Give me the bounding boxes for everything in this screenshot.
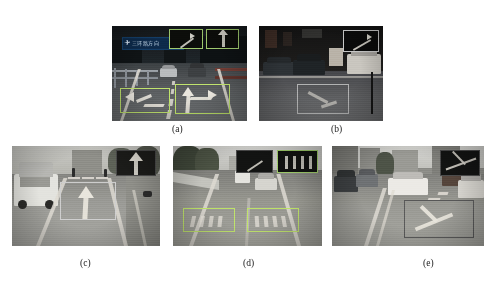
vehicle xyxy=(160,68,177,77)
crosswalk-stripe xyxy=(82,177,94,179)
shop-window xyxy=(329,48,343,66)
caption-c: (c) xyxy=(80,258,91,268)
panel-d xyxy=(173,146,322,246)
tree xyxy=(376,152,394,176)
direction-sign-text: 三环路方向 xyxy=(132,39,159,46)
detection-box-turn-arrow xyxy=(297,84,349,114)
panel-b xyxy=(259,26,383,121)
detection-box-road-text-right xyxy=(247,208,299,232)
truck xyxy=(347,54,381,74)
curb-line xyxy=(259,76,383,78)
inset-left-turn-arrow xyxy=(169,29,203,49)
suv-window xyxy=(20,177,50,187)
panel-e xyxy=(332,146,484,246)
detection-box-crossing-x xyxy=(404,200,474,238)
caption-b: (b) xyxy=(331,124,342,134)
panel-a: 三环路方向 xyxy=(112,26,247,121)
lane-dash xyxy=(438,192,449,195)
street-pole xyxy=(371,72,373,114)
cyclist xyxy=(72,168,75,177)
vehicle xyxy=(263,62,295,75)
detection-box-left-turn-arrow xyxy=(120,88,170,113)
suv-wheel xyxy=(18,200,27,209)
inset-road-text-left xyxy=(236,150,273,173)
panel-a-scene: 三环路方向 xyxy=(112,26,247,121)
shop-window xyxy=(283,32,292,46)
panel-d-scene xyxy=(173,146,322,246)
inset-crossing-x xyxy=(440,150,480,176)
detection-box-road-text-left xyxy=(183,208,235,232)
detection-box-straight-right-arrow xyxy=(175,84,230,114)
vehicle xyxy=(334,176,358,192)
vehicle xyxy=(458,180,484,198)
vehicle xyxy=(293,60,325,75)
inset-road-text-right xyxy=(277,150,318,173)
panel-c-scene xyxy=(12,146,160,246)
caption-d: (d) xyxy=(243,258,254,268)
pedestrian xyxy=(104,169,107,177)
inset-straight-arrow xyxy=(116,150,156,176)
caption-a: (a) xyxy=(172,124,183,134)
shop-window xyxy=(265,30,277,48)
vehicle xyxy=(356,174,378,187)
panel-c xyxy=(12,146,160,246)
crosswalk-stripe xyxy=(68,177,80,179)
vehicle xyxy=(188,67,206,77)
background-building xyxy=(72,150,102,174)
detection-box-straight-arrow xyxy=(60,182,116,220)
figure-container: 三环路方向 xyxy=(0,0,496,286)
caption-e: (e) xyxy=(423,258,434,268)
vehicle-sedan xyxy=(255,178,277,190)
dog xyxy=(143,191,152,197)
shop-sign xyxy=(302,29,322,38)
inset-turn-arrow xyxy=(343,30,379,52)
panel-e-scene xyxy=(332,146,484,246)
inset-straight-arrow xyxy=(206,29,239,49)
panel-b-scene xyxy=(259,26,383,121)
